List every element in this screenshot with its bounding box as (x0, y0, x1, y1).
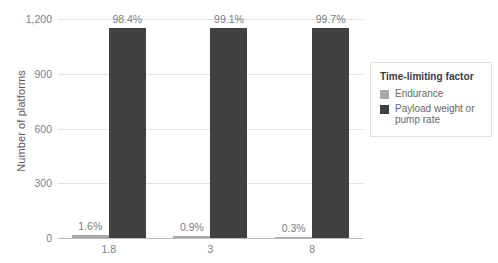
chart-legend: Time-limiting factor Endurance Payload w… (370, 62, 492, 137)
bar-group: 1.6%98.4%1.8 (58, 19, 160, 238)
y-axis-tick-label: 600 (34, 123, 52, 135)
bar-payload[interactable] (210, 28, 247, 238)
plot-area: 03006009001,2001.6%98.4%1.80.9%99.1%30.3… (58, 19, 363, 238)
y-axis-tick-label: 300 (34, 177, 52, 189)
bar-group: 0.3%99.7%8 (261, 19, 363, 238)
bar-value-label: 99.7% (303, 13, 358, 25)
y-axis-title: Number of platforms (15, 31, 27, 211)
y-axis-tick-label: 0 (46, 232, 52, 244)
legend-swatch-icon (380, 90, 389, 99)
bar-endurance[interactable] (72, 235, 109, 238)
legend-title: Time-limiting factor (380, 71, 482, 82)
y-axis-tick-label: 1,200 (26, 13, 52, 25)
x-axis-tick-label: 1.8 (58, 243, 160, 255)
bar-payload[interactable] (109, 28, 146, 238)
legend-item-label: Payload weight or pump rate (395, 103, 482, 126)
legend-item-endurance[interactable]: Endurance (380, 88, 482, 100)
bar-endurance[interactable] (275, 237, 312, 239)
bar-value-label: 99.1% (201, 13, 256, 25)
x-axis-line (58, 238, 363, 239)
bar-group: 0.9%99.1%3 (160, 19, 262, 238)
bar-payload[interactable] (312, 28, 349, 238)
legend-item-payload[interactable]: Payload weight or pump rate (380, 103, 482, 126)
bar-value-label: 98.4% (100, 13, 155, 25)
legend-swatch-icon (380, 105, 389, 114)
x-axis-tick-label: 3 (160, 243, 262, 255)
bar-endurance[interactable] (173, 236, 210, 238)
y-axis-tick-label: 900 (34, 68, 52, 80)
x-axis-tick-label: 8 (261, 243, 363, 255)
legend-item-label: Endurance (395, 88, 443, 100)
chart-container: Number of platforms 03006009001,2001.6%9… (0, 0, 498, 263)
